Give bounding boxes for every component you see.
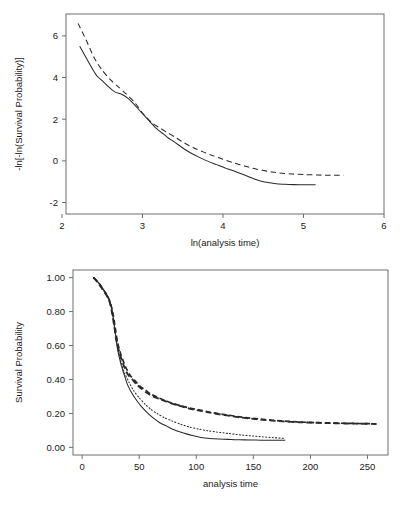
x-axis-title: analysis time — [203, 478, 258, 489]
survival-analysis-figure: 23456-20246ln(analysis time)-ln[-ln(Surv… — [0, 0, 406, 511]
y-tick-label: 0.20 — [47, 408, 66, 419]
kaplan-meier-plot-svg: 0501001502002500.000.200.400.600.801.00a… — [0, 255, 406, 511]
log-log-plot-svg: 23456-20246ln(analysis time)-ln[-ln(Surv… — [0, 0, 406, 255]
y-tick-label: 4 — [53, 72, 58, 83]
x-tick-label: 100 — [188, 461, 204, 472]
plot-frame — [66, 14, 384, 214]
series-group-b-fitted — [94, 278, 286, 439]
y-tick-label: 0.60 — [47, 340, 66, 351]
x-tick-label: 50 — [134, 461, 145, 472]
y-axis-title: Survival Probability — [13, 322, 24, 403]
log-log-survival-panel: 23456-20246ln(analysis time)-ln[-ln(Surv… — [0, 0, 406, 255]
kaplan-meier-panel: 0501001502002500.000.200.400.600.801.00a… — [0, 255, 406, 511]
x-tick-label: 4 — [220, 220, 225, 231]
y-tick-label: 0.00 — [47, 442, 66, 453]
series-group-a-fitted — [94, 278, 375, 424]
y-tick-label: 2 — [53, 114, 58, 125]
x-axis-title: ln(analysis time) — [191, 237, 260, 248]
y-tick-label: 0.80 — [47, 306, 66, 317]
x-tick-label: 2 — [59, 220, 64, 231]
x-tick-label: 6 — [381, 220, 386, 231]
y-tick-label: 0 — [53, 155, 58, 166]
y-axis-title: -ln[-ln(Survival Probability)] — [13, 57, 24, 171]
x-tick-label: 3 — [140, 220, 145, 231]
y-tick-label: 1.00 — [47, 272, 66, 283]
series-group-2-fitted — [78, 23, 344, 175]
series-group-1-observed — [80, 46, 316, 185]
x-tick-label: 250 — [360, 461, 376, 472]
y-tick-label: 6 — [53, 30, 58, 41]
y-tick-label: 0.40 — [47, 374, 66, 385]
x-tick-label: 200 — [302, 461, 318, 472]
x-tick-label: 0 — [79, 461, 84, 472]
series-group-a-observed — [94, 278, 377, 424]
x-tick-label: 150 — [245, 461, 261, 472]
x-tick-label: 5 — [301, 220, 306, 231]
y-tick-label: -2 — [50, 197, 58, 208]
